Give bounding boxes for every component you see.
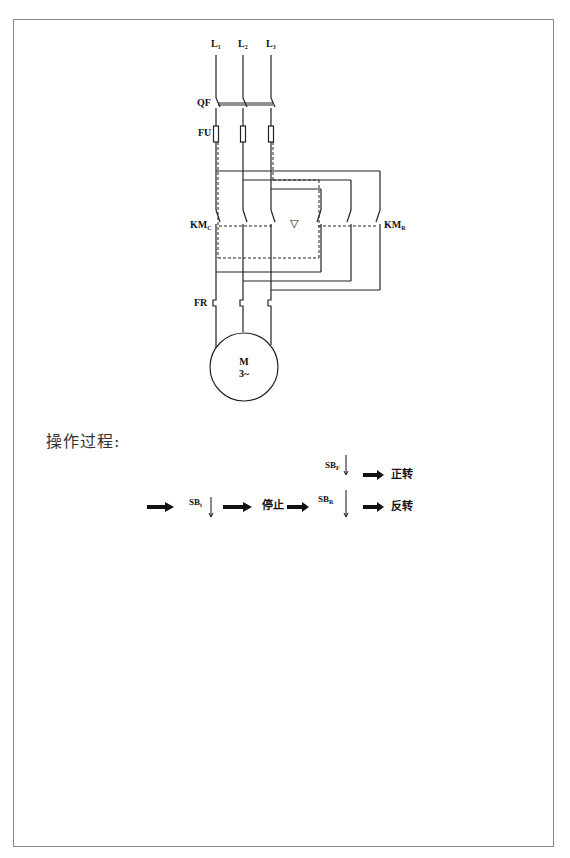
interlock-symbol: ▽: [290, 217, 298, 230]
label-l3: L3: [266, 38, 276, 50]
label-sb-reverse: SBR: [318, 494, 333, 505]
label-qf: QF: [197, 97, 211, 108]
label-sb-forward: SBF: [325, 460, 340, 471]
forward-text: 正转: [391, 465, 413, 481]
label-km-r: KMR: [384, 219, 406, 231]
label-km-c: KMC: [190, 219, 212, 231]
label-fu: FU: [198, 127, 211, 138]
operation-title: 操作过程:: [46, 428, 120, 452]
stop-text: 停止: [262, 496, 284, 512]
label-l1: L1: [211, 38, 221, 50]
motor-label: M 3~: [228, 356, 260, 380]
label-sb-stop: SBt: [189, 497, 202, 508]
reverse-text: 反转: [391, 497, 413, 513]
label-l2: L2: [238, 38, 248, 50]
label-fr: FR: [194, 297, 207, 308]
